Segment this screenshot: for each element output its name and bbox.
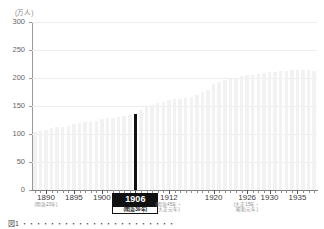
y-axis-tick-label: 150 bbox=[12, 102, 25, 110]
y-axis-tick bbox=[29, 134, 32, 135]
y-axis-tick bbox=[29, 22, 32, 23]
x-axis-year: 1935 bbox=[272, 193, 322, 202]
bar bbox=[106, 118, 109, 190]
y-axis-tick bbox=[29, 50, 32, 51]
bar bbox=[156, 103, 159, 190]
bar bbox=[44, 130, 47, 190]
bar bbox=[268, 72, 271, 190]
bar bbox=[234, 78, 237, 190]
bar bbox=[122, 116, 125, 190]
bar bbox=[111, 118, 114, 190]
bar bbox=[39, 131, 42, 190]
bar bbox=[251, 75, 254, 190]
bar bbox=[150, 105, 153, 190]
bar bbox=[117, 117, 120, 190]
bar bbox=[206, 90, 209, 190]
bar bbox=[245, 75, 248, 190]
y-axis-tick bbox=[29, 106, 32, 107]
bar bbox=[190, 97, 193, 190]
bar bbox=[257, 74, 260, 190]
bar bbox=[178, 99, 181, 190]
bar bbox=[83, 122, 86, 190]
y-axis-tick bbox=[29, 162, 32, 163]
y-axis-tick bbox=[29, 190, 32, 191]
x-axis-tick-label: 1912(明治45年・大正元年) bbox=[144, 193, 194, 212]
bar bbox=[139, 110, 142, 190]
bar-series bbox=[32, 22, 317, 190]
bar bbox=[184, 98, 187, 190]
bar bbox=[145, 107, 148, 190]
x-axis-era: 昭和元年) bbox=[222, 207, 272, 212]
bar bbox=[78, 123, 81, 190]
x-axis-tick-label: 1935 bbox=[272, 193, 322, 202]
bar bbox=[285, 71, 288, 190]
bar bbox=[95, 121, 98, 190]
bar bbox=[50, 128, 53, 190]
bar bbox=[100, 119, 103, 190]
x-axis-era: (明治23年) bbox=[21, 202, 71, 207]
bar bbox=[290, 70, 293, 190]
bar bbox=[312, 71, 315, 190]
chart-figure: (万人) 300250200150100500 1890(明治23年)18951… bbox=[0, 0, 324, 229]
x-axis-year: 1912 bbox=[144, 193, 194, 202]
y-axis-tick-label-group: 300250200150100500 bbox=[0, 22, 29, 191]
y-axis-tick bbox=[29, 78, 32, 79]
bar bbox=[55, 127, 58, 190]
bar bbox=[229, 79, 232, 190]
y-axis-tick-label: 50 bbox=[17, 158, 25, 166]
bar bbox=[240, 76, 243, 190]
bar bbox=[279, 71, 282, 190]
bar bbox=[223, 80, 226, 190]
bar bbox=[201, 92, 204, 190]
y-axis-tick-label: 300 bbox=[12, 18, 25, 26]
bar bbox=[61, 127, 64, 190]
y-axis-tick-label: 200 bbox=[12, 74, 25, 82]
bar bbox=[33, 132, 36, 190]
bar bbox=[72, 124, 75, 190]
bar bbox=[167, 100, 170, 190]
bar bbox=[217, 82, 220, 190]
bar bbox=[296, 70, 299, 190]
plot-area bbox=[32, 22, 317, 190]
bar bbox=[89, 122, 92, 190]
bar bbox=[195, 95, 198, 190]
y-axis-tick-label: 250 bbox=[12, 46, 25, 54]
figure-caption: 図1 ・・・・・・・・・・・・・・・・・・・・・・ bbox=[8, 219, 175, 228]
bar bbox=[307, 70, 310, 190]
bar bbox=[128, 115, 131, 190]
bar bbox=[301, 70, 304, 190]
bar bbox=[173, 99, 176, 190]
bar bbox=[212, 84, 215, 190]
y-axis-tick-label: 100 bbox=[12, 130, 25, 138]
bar bbox=[273, 72, 276, 190]
bar bbox=[162, 102, 165, 190]
bar bbox=[67, 126, 70, 190]
x-axis-era: 大正元年) bbox=[144, 207, 194, 212]
y-axis-unit-label: (万人) bbox=[15, 7, 33, 17]
bar-highlighted bbox=[134, 114, 137, 190]
bar bbox=[262, 73, 265, 190]
